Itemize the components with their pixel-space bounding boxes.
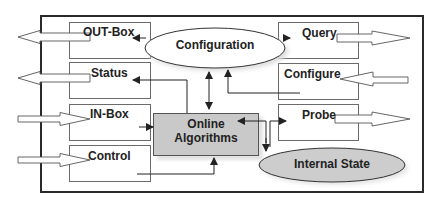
probe-block-arrow (335, 112, 410, 126)
query-label: Query (302, 27, 337, 40)
out-box-block-arrow (18, 31, 90, 44)
in-box-block-arrow (18, 113, 90, 126)
configure-block-arrow (340, 72, 408, 86)
internal-state-label: Internal State (259, 158, 405, 171)
connectors-layer (0, 0, 441, 202)
algorithms-to-status-arrow (133, 80, 187, 113)
architecture-diagram: OUT-Box Status IN-Box Control Query Conf… (0, 0, 441, 202)
algorithms-label-line1: Online (153, 118, 259, 131)
control-label: Control (88, 150, 131, 163)
configuration-label: Configuration (145, 39, 285, 52)
control-block-arrow (18, 154, 90, 167)
configure-label: Configure (284, 68, 341, 81)
algorithms-label-line2: Algorithms (153, 132, 259, 145)
status-block-arrow (18, 72, 90, 85)
control-to-algorithms-arrow (137, 158, 214, 174)
algorithms-probe-link-right (270, 121, 286, 147)
out-box-label: OUT-Box (83, 26, 134, 39)
in-box-label: IN-Box (90, 108, 129, 121)
query-block-arrow (337, 31, 410, 45)
probe-label: Probe (302, 109, 336, 122)
status-label: Status (91, 67, 128, 80)
